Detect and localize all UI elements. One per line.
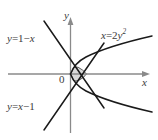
y-axis-label: y [64,10,69,21]
label-line-y-equals-one-minus-x: y=1−x [7,33,35,44]
line-y-equals-x-minus-one [44,43,104,130]
x-axis-label: x [142,77,147,88]
line-y-equals-one-minus-x [44,21,104,108]
label-parabola-equation: x=2y2 [101,30,126,41]
origin-label: 0 [59,74,65,85]
label-line-1-rhs-b: x [30,32,35,44]
math-figure: y=1−x y=x−1 x=2y2 y x 0 [0,0,158,140]
label-line-y-equals-x-minus-one: y=x−1 [7,101,35,112]
label-line-2-rhs-b: 1 [29,100,35,112]
parabola-upper-branch [71,36,153,74]
label-parabola-exponent: 2 [123,28,127,36]
figure-canvas [0,0,158,140]
parabola-lower-branch [71,74,153,112]
